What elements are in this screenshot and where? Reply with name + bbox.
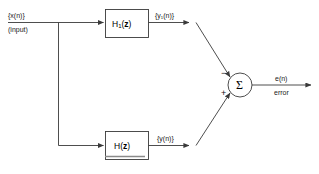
summation-symbol: Σ — [236, 79, 243, 91]
h-block-label: H(z) — [114, 141, 130, 153]
y-to-summer-line — [196, 93, 230, 146]
h1-label-paren-close: ) — [129, 19, 132, 29]
diagram-canvas — [0, 0, 319, 174]
summer-plus-sign: + — [221, 89, 226, 98]
summer-minus-sign: − — [221, 69, 226, 78]
h-label-paren-close: ) — [127, 141, 130, 151]
h1-output-signal-label: {y₁(n)} — [155, 11, 174, 20]
error-descriptor-label: error — [274, 88, 289, 97]
h1-block-label: H1(z) — [112, 19, 131, 31]
block-diagram: {x(n)} (input) H1(z) H(z) {y₁(n)} {y(n)}… — [0, 0, 319, 174]
input-descriptor-label: (input) — [8, 25, 28, 34]
h-output-signal-label: {y(n)} — [157, 134, 174, 143]
input-signal-label: {x(n)} — [8, 11, 25, 20]
error-signal-label: e(n) — [275, 74, 287, 83]
